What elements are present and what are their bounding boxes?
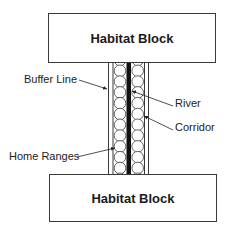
home-range-circle	[114, 151, 126, 163]
home-range-circle	[114, 141, 126, 153]
habitat-block-top-label: Habitat Block	[90, 31, 173, 46]
home-range-circle	[132, 141, 144, 153]
home-range-circle	[132, 151, 144, 163]
home-range-circle	[132, 97, 144, 109]
habitat-corridor-diagram: Habitat Block Habitat Block Buffer Line …	[0, 0, 227, 235]
home-range-circle	[132, 162, 144, 174]
home-range-circle	[114, 97, 126, 109]
home-range-circle	[132, 130, 144, 142]
home-range-circle	[132, 119, 144, 131]
home-ranges-label: Home Ranges	[9, 151, 79, 162]
buffer-line-label: Buffer Line	[24, 74, 77, 85]
home-range-circle	[132, 65, 144, 77]
home-range-circle	[114, 65, 126, 77]
home-range-circle	[114, 76, 126, 88]
habitat-block-top: Habitat Block	[48, 13, 216, 63]
home-range-circle	[114, 162, 126, 174]
home-range-circle	[132, 87, 144, 99]
home-range-circle	[114, 87, 126, 99]
home-range-circle	[132, 76, 144, 88]
habitat-block-bottom-label: Habitat Block	[91, 191, 174, 206]
habitat-block-bottom: Habitat Block	[49, 174, 217, 222]
home-range-circle	[114, 130, 126, 142]
river	[127, 56, 132, 176]
home-range-circle	[132, 108, 144, 120]
home-range-circle	[114, 119, 126, 131]
home-range-circle	[114, 108, 126, 120]
corridor-label: Corridor	[175, 122, 215, 133]
river-label: River	[175, 98, 201, 109]
